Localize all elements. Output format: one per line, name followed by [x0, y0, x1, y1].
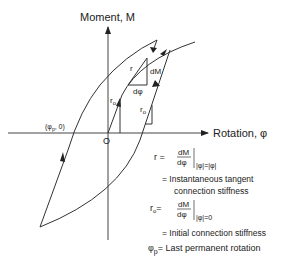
r0-def-eval: |φ|=0 [196, 214, 212, 222]
r-def-desc-2: connection stiffness [174, 186, 249, 196]
r-def-eval: |φ|=|φ| [196, 162, 217, 170]
r-label: r [130, 64, 133, 73]
phip-def: φp= Last permanent rotation [148, 243, 261, 256]
x-axis-label: Rotation, φ [213, 127, 267, 139]
phi-p-point-label: (φp, 0) [45, 123, 65, 132]
moment-rotation-diagram: Moment, M Rotation, φ O (φp, 0) r dM dφ … [0, 0, 305, 274]
r-def-den: dφ [177, 158, 187, 167]
dM-label: dM [150, 67, 161, 76]
r0-right-label: ro [140, 105, 147, 115]
r0-left-label: ro [110, 96, 117, 106]
r-def-lhs: r = [154, 152, 165, 162]
r-def-num: dM [178, 148, 189, 157]
r0-def-lhs: ro= [150, 203, 162, 214]
r0-def-desc: = Initial connection stiffness [162, 228, 266, 238]
r-def-desc-1: = Instantaneous tangent [162, 174, 254, 184]
r0-def-num: dM [178, 200, 189, 209]
y-axis-label: Moment, M [80, 11, 135, 23]
arrowhead-loading-icon [160, 49, 167, 56]
r0-def-den: dφ [177, 210, 187, 219]
dphi-label: dφ [133, 87, 143, 96]
origin-label: O [103, 136, 110, 146]
arrowhead-down-icon [150, 47, 157, 53]
arrowhead-reloading-icon [60, 152, 65, 162]
